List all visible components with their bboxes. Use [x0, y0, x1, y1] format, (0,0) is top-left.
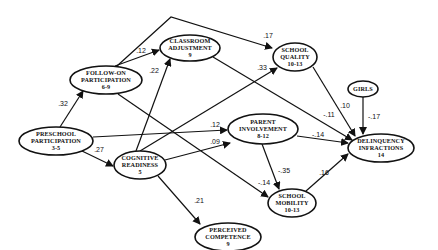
node-label-classroom-1: ADJUSTMENT [168, 44, 212, 51]
coefficient-cognitive-quality: .33 [257, 64, 267, 71]
node-label-delinquency-0: DELINQUENCY [357, 137, 405, 144]
node-label-quality-0: SCHOOL [281, 46, 308, 53]
node-label-cognitive-1: READINESS [122, 161, 159, 168]
node-label-followon-1: PARTICIPATION [81, 76, 131, 83]
coefficient-cognitive-competence: .21 [194, 197, 204, 204]
coefficient-preschool-parent: .12 [210, 121, 220, 128]
node-label-delinquency-2: 14 [378, 151, 384, 158]
coefficient-preschool-cognitive: .27 [94, 146, 104, 153]
node-label-followon-2: 6-9 [102, 83, 111, 90]
node-cognitive: COGNITIVEREADINESS5 [114, 151, 166, 179]
coefficient-parent-delinquency: -.14 [312, 131, 324, 138]
node-label-preschool-0: PRESCHOOL [36, 130, 76, 137]
edge-preschool-cognitive [82, 151, 113, 166]
node-label-quality-2: 10-13 [288, 60, 303, 67]
node-followon: FOLLOW-ONPARTICIPATION6-9 [70, 66, 142, 94]
node-label-cognitive-0: COGNITIVE [121, 154, 158, 161]
node-label-mobility-1: MOBILITY [275, 199, 309, 206]
node-preschool: PRESCHOOLPARTICIPATION3-5 [19, 127, 93, 155]
node-label-preschool-1: PARTICIPATION [31, 137, 81, 144]
coefficient-followon-mobility: -.14 [258, 179, 270, 186]
node-label-delinquency-1: INFRACTIONS [359, 144, 404, 151]
coefficient-mobility-delinquency: .16 [319, 169, 329, 176]
node-label-competence-0: PERCEIVED [209, 226, 247, 233]
node-label-cognitive-2: 5 [138, 168, 141, 175]
node-label-followon-0: FOLLOW-ON [86, 69, 126, 76]
node-label-parent-0: PARENT [250, 118, 276, 125]
path-diagram: PRESCHOOLPARTICIPATION3-5FOLLOW-ONPARTIC… [0, 0, 438, 250]
coefficient-cognitive-classroom: .22 [149, 67, 159, 74]
node-label-girls-0: GIRLS [353, 85, 373, 92]
node-girls: GIRLS [348, 81, 378, 97]
node-label-classroom-0: CLASSROOM [170, 37, 211, 44]
node-quality: SCHOOLQUALITY10-13 [273, 43, 317, 71]
node-label-quality-1: QUALITY [280, 53, 310, 60]
coefficient-quality-delinquency: .10 [340, 102, 350, 109]
coefficient-classroom-delinquency: -.11 [323, 111, 335, 118]
node-parent: PARENTINVOLVEMENT8-12 [228, 114, 298, 144]
coefficient-cognitive-parent: .09 [210, 138, 220, 145]
coefficient-parent-mobility: -.35 [278, 167, 290, 174]
node-label-parent-2: 8-12 [257, 132, 269, 139]
node-competence: PERCEIVEDCOMPETENCE9 [195, 223, 261, 250]
coefficient-preschool-followon: .32 [58, 100, 68, 107]
coefficient-followon-classroom: .12 [136, 47, 146, 54]
node-label-mobility-2: 10-13 [285, 206, 300, 213]
node-delinquency: DELINQUENCYINFRACTIONS14 [348, 134, 414, 162]
edge-cognitive-parent [165, 143, 230, 160]
coefficient-girls-delinquency: -.17 [368, 113, 380, 120]
node-label-competence-2: 9 [226, 240, 229, 247]
node-classroom: CLASSROOMADJUSTMENT9 [160, 35, 220, 61]
node-mobility: SCHOOLMOBILITY10-13 [268, 189, 316, 217]
edge-preschool-followon [60, 91, 83, 127]
node-label-preschool-2: 3-5 [52, 144, 61, 151]
node-label-parent-1: INVOLVEMENT [239, 125, 288, 132]
edge-followon-mobility [118, 94, 268, 197]
node-label-classroom-2: 9 [188, 51, 191, 58]
edge-preschool-parent [93, 130, 227, 137]
node-label-competence-1: COMPETENCE [205, 233, 250, 240]
node-label-mobility-0: SCHOOL [278, 192, 305, 199]
coefficient-followon-quality: .17 [263, 32, 273, 39]
